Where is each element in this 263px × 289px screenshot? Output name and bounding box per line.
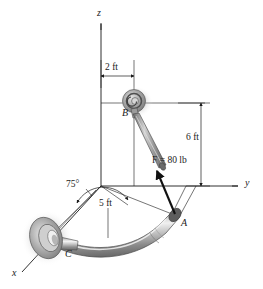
dim-6ft-group [178, 103, 210, 186]
z-axis-label: z [97, 8, 101, 18]
curved-pipe [59, 206, 184, 257]
y-axis-label: y [245, 178, 249, 188]
angle-75-label: 75° [66, 180, 79, 190]
statics-figure: z y x 2 ft 6 ft 5 ft 75° F = 80 lb B A C [0, 0, 263, 289]
force-label: F = 80 lb [152, 156, 187, 166]
dim-6ft-label: 6 ft [186, 133, 199, 143]
point-b-label: B [122, 108, 128, 118]
figure-canvas [0, 0, 263, 289]
dim-2ft-label: 2 ft [105, 63, 118, 73]
force-vector-arrow[interactable] [157, 171, 175, 214]
dim-5ft-label: 5 ft [99, 199, 112, 209]
point-a-label: A [181, 218, 187, 228]
eyebolt-hub [132, 98, 139, 105]
point-c-label: C [65, 249, 72, 259]
x-axis-label: x [12, 268, 16, 278]
